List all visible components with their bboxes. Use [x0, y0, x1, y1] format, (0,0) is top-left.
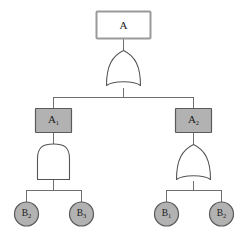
top-event-node[interactable]: A: [97, 12, 151, 39]
top-event-label: A: [120, 19, 128, 31]
basic-event-2-node[interactable]: B3: [70, 202, 94, 226]
fault-tree-canvas: A A1 A2: [0, 0, 247, 239]
or-gate-icon: [177, 145, 211, 180]
intermediate-right-subscript: 2: [196, 119, 199, 126]
right-or-gate[interactable]: [177, 145, 211, 180]
intermediate-left-base: A: [48, 113, 56, 125]
basic-event-4-subscript: 2: [223, 212, 226, 219]
fault-tree-diagram: A A1 A2: [0, 0, 247, 239]
basic-event-3-node[interactable]: B1: [155, 202, 179, 226]
basic-event-3-subscript: 1: [168, 212, 171, 219]
intermediate-left-subscript: 1: [56, 119, 59, 126]
intermediate-left-node[interactable]: A1: [36, 109, 72, 133]
intermediate-right-base: A: [188, 113, 196, 125]
intermediate-right-node[interactable]: A2: [176, 109, 212, 133]
and-gate-icon: [38, 144, 70, 180]
or-gate-icon: [107, 51, 141, 86]
basic-event-1-subscript: 2: [28, 212, 31, 219]
top-event-base: A: [120, 19, 128, 31]
basic-event-2-subscript: 3: [83, 212, 86, 219]
top-or-gate[interactable]: [107, 51, 141, 86]
basic-event-4-node[interactable]: B2: [210, 202, 234, 226]
basic-event-1-node[interactable]: B2: [15, 202, 39, 226]
left-and-gate[interactable]: [38, 144, 70, 180]
